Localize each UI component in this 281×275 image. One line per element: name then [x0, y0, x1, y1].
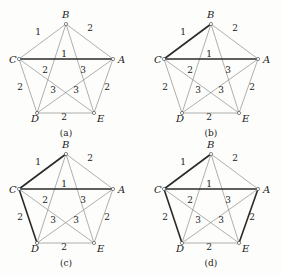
vertex-a	[111, 187, 114, 190]
vertex-a	[111, 57, 114, 60]
edge-weight-ce: 3	[195, 85, 201, 95]
panel-d: 2112322233ABCDE(d)	[154, 139, 270, 268]
vertex-c	[162, 57, 165, 60]
edge-bc	[164, 24, 211, 59]
panel-caption-b: (b)	[205, 128, 218, 138]
vertex-label-d: D	[175, 113, 184, 124]
vertex-label-c: C	[9, 184, 17, 195]
panel-c: 2112322233ABCDE(c)	[9, 139, 125, 268]
vertex-c	[17, 187, 20, 190]
vertex-c	[17, 57, 20, 60]
edge-weight-ae: 2	[104, 212, 110, 222]
edge-weight-bc: 1	[35, 157, 41, 167]
edge-weight-ae: 2	[104, 82, 110, 92]
edge-weight-ad: 3	[218, 215, 224, 225]
edge-weight-be: 3	[225, 65, 231, 75]
panel-caption-d: (d)	[205, 258, 218, 268]
edge-bc	[19, 24, 66, 59]
edge-weight-bd: 2	[187, 195, 193, 205]
edge-bc	[19, 154, 66, 189]
edge-weight-ad: 3	[73, 85, 79, 95]
edge-weight-ac: 1	[61, 179, 67, 189]
edge-weight-de: 2	[206, 112, 212, 122]
vertex-a	[256, 187, 259, 190]
edge-weight-bd: 2	[187, 65, 193, 75]
edge-weight-de: 2	[61, 242, 67, 252]
edge-weight-cd: 2	[17, 212, 23, 222]
edge-weight-ae: 2	[249, 82, 255, 92]
edge-weight-ab: 2	[87, 23, 93, 33]
edge-weight-be: 3	[225, 195, 231, 205]
edge-weight-ce: 3	[195, 215, 201, 225]
panel-caption-a: (a)	[60, 128, 72, 138]
graph-diagram: 2112322233ABCDE(a)2112322233ABCDE(b)2112…	[0, 0, 281, 275]
edge-weight-ac: 1	[206, 179, 212, 189]
edge-weight-bd: 2	[42, 195, 48, 205]
vertex-label-e: E	[241, 113, 250, 124]
edge-weight-bc: 1	[180, 157, 186, 167]
edge-weight-bc: 1	[180, 27, 186, 37]
vertex-label-d: D	[175, 243, 184, 254]
vertex-label-a: A	[262, 184, 270, 195]
edge-weight-ad: 3	[218, 85, 224, 95]
edge-weight-ab: 2	[232, 153, 238, 163]
edge-weight-de: 2	[61, 112, 67, 122]
vertex-label-c: C	[154, 54, 162, 65]
panel-caption-c: (c)	[60, 258, 72, 268]
vertex-c	[162, 187, 165, 190]
vertex-label-c: C	[154, 184, 162, 195]
edge-weight-cd: 2	[162, 82, 168, 92]
panel-a: 2112322233ABCDE(a)	[9, 9, 125, 138]
edge-weight-ce: 3	[50, 85, 56, 95]
panel-b: 2112322233ABCDE(b)	[154, 9, 270, 138]
vertex-label-d: D	[30, 243, 39, 254]
vertex-label-e: E	[96, 113, 105, 124]
vertex-label-b: B	[61, 9, 69, 20]
vertex-label-e: E	[96, 243, 105, 254]
edge-weight-cd: 2	[17, 82, 23, 92]
vertex-label-b: B	[206, 139, 214, 150]
vertex-e	[237, 241, 240, 244]
vertex-e	[92, 241, 95, 244]
vertex-b	[64, 22, 67, 25]
vertex-label-e: E	[241, 243, 250, 254]
vertex-label-b: B	[206, 9, 214, 20]
vertex-label-d: D	[30, 113, 39, 124]
edge-weight-ad: 3	[73, 215, 79, 225]
vertex-label-b: B	[61, 139, 69, 150]
edge-weight-bd: 2	[42, 65, 48, 75]
edge-weight-ae: 2	[249, 212, 255, 222]
edge-weight-cd: 2	[162, 212, 168, 222]
edge-weight-ce: 3	[50, 215, 56, 225]
vertex-b	[209, 22, 212, 25]
edge-weight-be: 3	[80, 65, 86, 75]
edge-weight-ac: 1	[61, 49, 67, 59]
edge-weight-ab: 2	[87, 153, 93, 163]
vertex-e	[237, 111, 240, 114]
vertex-a	[256, 57, 259, 60]
edge-bc	[164, 154, 211, 189]
vertex-label-c: C	[9, 54, 17, 65]
vertex-b	[64, 152, 67, 155]
edge-weight-be: 3	[80, 195, 86, 205]
vertex-e	[92, 111, 95, 114]
vertex-b	[209, 152, 212, 155]
vertex-label-a: A	[117, 54, 125, 65]
edge-weight-ab: 2	[232, 23, 238, 33]
vertex-label-a: A	[262, 54, 270, 65]
edge-weight-de: 2	[206, 242, 212, 252]
edge-weight-ac: 1	[206, 49, 212, 59]
vertex-label-a: A	[117, 184, 125, 195]
edge-weight-bc: 1	[35, 27, 41, 37]
